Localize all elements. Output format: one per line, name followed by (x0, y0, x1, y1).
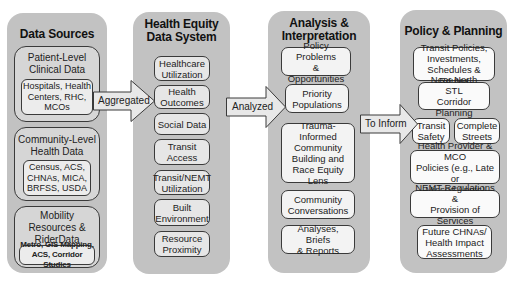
box-nemt-regulations: NEMT Regulations & Provision of Services (410, 190, 500, 218)
box-future-chnas: Future CHNAs/ Health Impact Assessments (417, 225, 492, 259)
box-trauma-informed: Trauma- Informed Community Building and … (281, 123, 355, 183)
column-data-sources: Data Sources Patient-Level Clinical Data… (7, 13, 107, 273)
box-policy-problems: Policy Problems & Opportunities (281, 47, 351, 76)
box-priority-populations: Priority Populations (285, 84, 349, 113)
box-health-provider-mco: Health Provider & MCO Policies (e.g., La… (410, 150, 500, 184)
arrow-label: Analyzed (232, 101, 273, 113)
box-analyses-briefs-reports: Analyses, Briefs & Reports (281, 225, 355, 254)
arrow-label: Aggregated (98, 95, 150, 107)
sub-box-metro: Metro, GIS Mapping, ACS, Corridor Studie… (19, 245, 95, 265)
column-title: Policy & Planning (400, 25, 507, 38)
box-community-conversations: Community Conversations (281, 190, 355, 219)
box-social-data: Social Data (154, 113, 210, 135)
group-label: Patient-Level Clinical Data (15, 52, 99, 76)
arrow-analyzed: Analyzed (226, 86, 286, 128)
box-health-outcomes: Health Outcomes (154, 85, 210, 109)
sub-box-hospitals: Hospitals, Health Centers, RHC, MCOs (21, 79, 93, 115)
column-analysis-interpretation: Analysis & Interpretation Policy Problem… (268, 11, 370, 273)
arrow-to-inform: To Inform (360, 104, 418, 144)
group-patient-level-clinical-data: Patient-Level Clinical Data Hospitals, H… (14, 46, 100, 122)
column-health-equity-data-system: Health Equity Data System Healthcare Uti… (133, 12, 230, 274)
box-transit-nemt-utilization: Transit/NEMT Utilization (154, 170, 210, 195)
group-mobility-resources: Mobility Resources & RiderData Metro, GI… (14, 206, 100, 268)
arrow-label: To Inform (365, 118, 407, 130)
box-built-environment: Built Environment (154, 199, 210, 226)
group-label: Community-Level Health Data (15, 134, 99, 158)
column-title: Data Sources (7, 28, 107, 41)
box-near-north-stl: Near North STL Corridor Planning (418, 82, 490, 110)
box-resource-proximity: Resource Proximity (154, 231, 210, 257)
group-community-level-health-data: Community-Level Health Data Census, ACS,… (14, 127, 100, 201)
column-title: Health Equity Data System (133, 18, 230, 44)
box-transit-access: Transit Access (154, 139, 210, 165)
arrow-aggregated: Aggregated (93, 80, 155, 122)
box-healthcare-utilization: Healthcare Utilization (154, 56, 210, 81)
sub-box-census: Census, ACS, CHNAs, MICA, BRFSS, USDA (23, 160, 91, 196)
